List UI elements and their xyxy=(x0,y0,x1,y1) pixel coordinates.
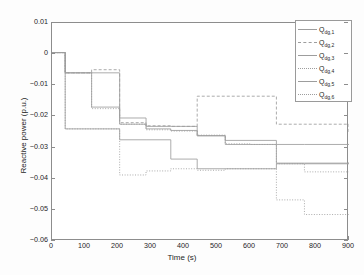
legend-item-label: Qdg,1 xyxy=(319,26,334,33)
y-axis-tick-label: −0.03 xyxy=(30,143,48,150)
y-axis-tick-mark xyxy=(344,209,348,210)
y-axis-tick-label: −0.01 xyxy=(30,81,48,88)
y-axis-tick-mark xyxy=(51,53,55,54)
legend-line-swatch xyxy=(298,78,317,86)
x-axis-tick-label: 300 xyxy=(144,242,156,249)
x-axis-tick-label: 500 xyxy=(210,242,222,249)
y-axis-tick-mark xyxy=(344,53,348,54)
x-axis-tick-label: 600 xyxy=(243,242,255,249)
y-axis-tick-mark xyxy=(51,115,55,116)
y-axis-tick-label: −0.02 xyxy=(30,112,48,119)
legend-item-6[interactable]: Qdg,6 xyxy=(296,88,351,101)
y-axis-tick-label: 0.01 xyxy=(34,18,48,25)
legend-item-1[interactable]: Qdg,1 xyxy=(296,23,351,36)
x-axis-tick-label: 800 xyxy=(309,242,321,249)
y-axis-tick-mark xyxy=(51,209,55,210)
y-axis-tick-label: −0.05 xyxy=(30,205,48,212)
y-axis-tick-mark xyxy=(344,240,348,241)
y-axis-tick-mark xyxy=(51,147,55,148)
x-axis-tick-label: 0 xyxy=(49,242,53,249)
legend-item-4[interactable]: Qdg,4 xyxy=(296,62,351,75)
y-axis-tick-mark xyxy=(51,22,55,23)
y-axis-tick-mark xyxy=(344,84,348,85)
legend-item-3[interactable]: Qdg,3 xyxy=(296,49,351,62)
legend-box[interactable]: Qdg,1Qdg,2Qdg,3Qdg,4Qdg,5Qdg,6 xyxy=(295,20,352,102)
y-axis-tick-mark xyxy=(51,84,55,85)
x-axis-tick-label: 700 xyxy=(276,242,288,249)
y-axis-tick-mark xyxy=(344,22,348,23)
legend-item-label: Qdg,2 xyxy=(319,39,334,46)
y-axis-tick-label: −0.06 xyxy=(30,236,48,243)
x-axis-label: Time (s) xyxy=(0,253,364,262)
x-axis-tick-label: 900 xyxy=(342,242,354,249)
figure-canvas: Reactive power (p.u.) 0.010−0.01−0.02−0.… xyxy=(0,0,364,275)
y-axis-tick-labels: 0.010−0.01−0.02−0.03−0.04−0.05−0.06 xyxy=(0,0,48,275)
legend-item-label: Qdg,4 xyxy=(319,65,334,72)
legend-item-5[interactable]: Qdg,5 xyxy=(296,75,351,88)
x-axis-tick-label: 400 xyxy=(177,242,189,249)
y-axis-tick-mark xyxy=(344,115,348,116)
y-axis-tick-mark xyxy=(51,240,55,241)
legend-item-label: Qdg,6 xyxy=(319,91,334,98)
legend-item-2[interactable]: Qdg,2 xyxy=(296,36,351,49)
legend-line-swatch xyxy=(298,91,317,99)
legend-item-label: Qdg,5 xyxy=(319,78,334,85)
y-axis-tick-label: −0.04 xyxy=(30,174,48,181)
legend-line-swatch xyxy=(298,52,317,60)
y-axis-tick-mark xyxy=(51,178,55,179)
legend-line-swatch xyxy=(298,39,317,47)
y-axis-tick-mark xyxy=(344,178,348,179)
legend-item-label: Qdg,3 xyxy=(319,52,334,59)
x-axis-tick-label: 200 xyxy=(111,242,123,249)
x-axis-tick-label: 100 xyxy=(78,242,90,249)
y-axis-tick-label: 0 xyxy=(44,50,48,57)
legend-line-swatch xyxy=(298,26,317,34)
legend-line-swatch xyxy=(298,65,317,73)
y-axis-tick-mark xyxy=(344,147,348,148)
